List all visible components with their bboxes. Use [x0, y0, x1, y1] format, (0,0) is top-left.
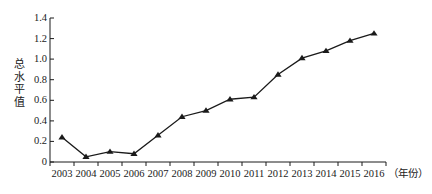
x-tick-label: 2016 — [364, 168, 385, 179]
x-tick-label: 2007 — [148, 168, 169, 179]
data-point-marker — [370, 30, 377, 35]
x-tick-label: 2015 — [340, 168, 361, 179]
x-tick-label: 2012 — [268, 168, 289, 179]
plot-area — [0, 0, 432, 194]
data-point-marker — [58, 134, 65, 139]
x-tick-label: 2004 — [76, 168, 97, 179]
chart-figure: 总 水 平 值 0 0.2 0.4 0.6 0.8 1.0 1.2 1.4 — [0, 0, 432, 194]
x-tick-label: 2013 — [292, 168, 313, 179]
x-tick-label: 2010 — [220, 168, 241, 179]
y-axis-ticks — [50, 18, 54, 162]
x-tick-label: 2014 — [316, 168, 337, 179]
data-point-marker — [106, 148, 113, 153]
x-axis-tick-labels: 2003 2004 2005 2006 2007 2008 2009 2010 … — [0, 168, 432, 184]
x-tick-label: 2006 — [124, 168, 145, 179]
x-axis-title: （年份） — [388, 168, 428, 179]
x-tick-label: 2009 — [196, 168, 217, 179]
x-axis-ticks — [50, 162, 386, 166]
x-tick-label: 2005 — [100, 168, 121, 179]
x-tick-label: 2008 — [172, 168, 193, 179]
x-tick-label: 2011 — [244, 168, 265, 179]
x-tick-label: 2003 — [52, 168, 73, 179]
